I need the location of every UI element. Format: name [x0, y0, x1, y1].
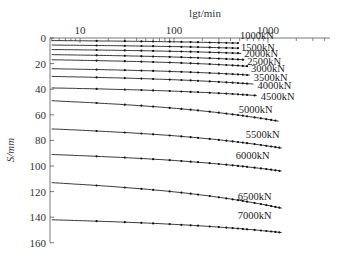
series-marker: [278, 170, 280, 172]
y-tick-label: 80: [35, 134, 47, 146]
series-marker: [124, 55, 126, 57]
series-marker: [180, 192, 182, 194]
series-marker: [197, 91, 199, 93]
series-marker: [232, 113, 234, 115]
series-marker: [197, 80, 199, 82]
series-marker: [140, 222, 142, 224]
series-marker: [180, 50, 182, 52]
y-tick-label: 20: [35, 58, 47, 70]
series-marker: [140, 61, 142, 63]
series-marker: [96, 130, 98, 132]
x-tick-label: 10: [75, 24, 87, 36]
y-tick-label: 0: [41, 32, 47, 44]
series-marker: [169, 190, 171, 192]
series-marker: [124, 77, 126, 79]
series-marker: [124, 40, 126, 42]
series-marker: [169, 90, 171, 92]
series-marker: [124, 69, 126, 71]
settlement-time-chart: 101001000lgt/min020406080100120140160S/m…: [0, 0, 359, 265]
series-marker: [265, 145, 267, 147]
series-marker: [169, 134, 171, 136]
series-marker: [209, 41, 211, 43]
series-marker: [152, 50, 154, 52]
series-marker: [96, 49, 98, 51]
series-marker: [209, 63, 211, 65]
series-marker: [232, 227, 234, 229]
series-marker: [254, 116, 256, 118]
series-marker: [254, 143, 256, 145]
series-marker: [197, 51, 199, 53]
series-marker: [140, 40, 142, 42]
series-marker: [237, 58, 239, 60]
series-marker: [218, 226, 220, 228]
series-marker: [232, 140, 234, 142]
series-marker: [209, 92, 211, 94]
series-marker: [140, 50, 142, 52]
series-marker: [190, 71, 192, 73]
series-marker: [237, 65, 239, 67]
series-marker: [96, 40, 98, 42]
series-marker: [140, 89, 142, 91]
series-label-5000kN: 5000kN: [239, 104, 273, 115]
series-marker: [265, 118, 267, 120]
series-marker: [254, 94, 256, 96]
series-marker: [190, 51, 192, 53]
series-marker: [209, 80, 211, 82]
series-marker: [96, 44, 98, 46]
series-marker: [237, 165, 239, 167]
series-marker: [169, 61, 171, 63]
series-marker: [218, 72, 220, 74]
series-marker: [246, 166, 248, 168]
series-marker: [260, 117, 262, 119]
series-marker: [96, 54, 98, 56]
series-marker: [242, 165, 244, 167]
series-marker: [124, 60, 126, 62]
series-marker: [218, 163, 220, 165]
series-marker: [152, 78, 154, 80]
series-marker: [237, 141, 239, 143]
series-marker: [152, 45, 154, 47]
series-line-4000kN: [52, 76, 254, 84]
series-marker: [197, 137, 199, 139]
series-marker: [225, 227, 227, 229]
series-marker: [180, 90, 182, 92]
series-marker: [169, 50, 171, 52]
series-marker: [232, 52, 234, 54]
series-marker: [237, 227, 239, 229]
series-marker: [140, 78, 142, 80]
series-marker: [190, 109, 192, 111]
series-marker: [265, 204, 267, 206]
series-marker: [209, 162, 211, 164]
series-marker: [169, 107, 171, 109]
series-marker: [274, 120, 276, 122]
series-marker: [197, 57, 199, 59]
series-marker: [237, 42, 239, 44]
x-tick-label: 100: [166, 24, 183, 36]
series-marker: [232, 64, 234, 66]
series-marker: [225, 52, 227, 54]
series-marker: [232, 58, 234, 60]
series-marker: [232, 73, 234, 75]
series-marker: [209, 57, 211, 59]
series-marker: [246, 83, 248, 85]
series-marker: [225, 113, 227, 115]
series-labels: 1000kN1500kN2000kN2500kN3000kN3500kN4000…: [236, 30, 295, 221]
series-marker: [180, 62, 182, 64]
series-marker: [152, 70, 154, 72]
series-marker: [180, 46, 182, 48]
series-marker: [152, 106, 154, 108]
series-marker: [218, 139, 220, 141]
series-marker: [124, 186, 126, 188]
series-marker: [218, 64, 220, 66]
series-marker: [169, 159, 171, 161]
series-marker: [270, 145, 272, 147]
series-marker: [225, 140, 227, 142]
series-marker: [140, 45, 142, 47]
series-marker: [225, 197, 227, 199]
series-marker: [209, 225, 211, 227]
series-marker: [152, 61, 154, 63]
series-marker: [237, 73, 239, 75]
series-label-4500kN: 4500kN: [261, 91, 295, 102]
series-marker: [242, 228, 244, 230]
series-label-6000kN: 6000kN: [236, 150, 270, 161]
